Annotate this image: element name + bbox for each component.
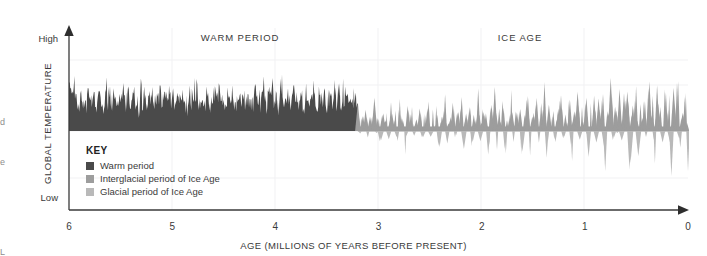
x-axis-tick-6: 6: [59, 222, 79, 232]
legend-item-0: Warm period: [86, 161, 256, 171]
x-axis-arrow-icon: [678, 205, 689, 214]
interglacial-spike: [517, 109, 523, 131]
y-axis-arrow-icon: [64, 25, 73, 36]
legend-title: KEY: [86, 146, 256, 156]
legend-item-label: Interglacial period of Ice Age: [100, 174, 220, 184]
series-ice-age: [355, 78, 690, 176]
glacial-spike: [358, 131, 361, 133]
series-warm-period: [69, 75, 358, 131]
figure-root: d e L High Lo: [0, 0, 707, 256]
glacial-spike: [679, 131, 682, 148]
glacial-spike: [420, 131, 426, 137]
legend-swatch-icon: [86, 175, 94, 183]
x-axis-tick-1: 1: [575, 222, 595, 232]
glacial-spike: [445, 131, 449, 144]
glacial-spike: [529, 131, 532, 155]
glacial-spike: [577, 131, 582, 140]
interglacial-spike: [590, 103, 592, 131]
x-axis-title: AGE (MILLIONS OF YEARS BEFORE PRESENT): [0, 240, 707, 251]
glacial-spike: [616, 131, 620, 133]
x-axis-tick-3: 3: [369, 222, 389, 232]
legend-items: Warm periodInterglacial period of Ice Ag…: [86, 161, 256, 197]
legend-item-label: Glacial period of Ice Age: [100, 187, 203, 197]
y-axis-high-label: High: [12, 34, 58, 44]
glacial-spike: [619, 131, 625, 141]
glacial-spike: [412, 131, 416, 136]
interglacial-spike: [668, 95, 670, 131]
glacial-spike: [603, 131, 607, 171]
glacial-spike: [366, 131, 369, 137]
glacial-spike: [594, 131, 600, 143]
glacial-spike: [586, 131, 591, 157]
legend-item-2: Glacial period of Ice Age: [86, 187, 256, 197]
glacial-spike: [386, 131, 391, 139]
legend-item-1: Interglacial period of Ice Age: [86, 174, 256, 184]
interglacial-spike: [394, 110, 397, 131]
legend-swatch-icon: [86, 188, 94, 196]
glacial-spike: [686, 131, 689, 171]
glacial-spike: [428, 131, 434, 137]
glacial-spike: [669, 131, 674, 176]
warm-period-area: [69, 75, 358, 131]
glacial-spike: [512, 131, 515, 142]
glacial-spike: [636, 131, 642, 156]
legend-item-label: Warm period: [100, 161, 154, 171]
annotation-ice-age: ICE AGE: [430, 32, 610, 43]
legend-swatch-icon: [86, 162, 94, 170]
glacial-spike: [654, 131, 657, 164]
glacial-spike: [520, 131, 525, 152]
y-axis-title: GLOBAL TEMPERATURE: [42, 49, 53, 199]
glacial-spike: [461, 131, 467, 149]
x-axis-tick-5: 5: [162, 222, 182, 232]
glacial-spike: [538, 131, 541, 143]
x-axis-tick-4: 4: [265, 222, 285, 232]
glacial-spike: [660, 131, 665, 143]
legend: KEY Warm periodInterglacial period of Ic…: [86, 146, 256, 200]
glacial-spike: [496, 131, 499, 150]
glacial-spike: [478, 131, 484, 141]
x-axis-tick-2: 2: [472, 222, 492, 232]
x-axis-tick-0: 0: [678, 222, 698, 232]
interglacial-spike: [651, 96, 654, 131]
glacial-spike: [645, 131, 648, 137]
glacial-spike: [571, 131, 574, 161]
annotation-warm-period: WARM PERIOD: [150, 32, 330, 43]
